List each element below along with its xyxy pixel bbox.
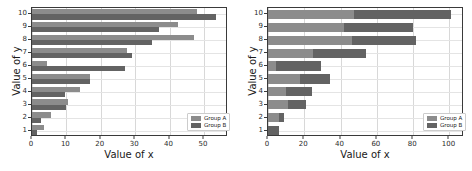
bar-segment (300, 74, 330, 83)
y-tick-label: 10 (249, 10, 263, 17)
bar-segment (268, 113, 279, 122)
x-tick-label: 0 (265, 141, 269, 148)
x-tick-label: 40 (335, 141, 344, 148)
x-tick-mark (412, 136, 413, 139)
legend-swatch-group-b-icon (191, 123, 201, 128)
x-tick-label: 100 (442, 141, 455, 148)
y-tick-mark (28, 39, 31, 40)
right-y-axis-label: Value of y (248, 26, 258, 116)
x-tick-label: 80 (408, 141, 417, 148)
x-tick-mark (202, 136, 203, 139)
left-legend: Group A Group B (187, 113, 230, 131)
y-tick-label: 1 (249, 126, 263, 133)
y-tick-mark (264, 130, 267, 131)
y-tick-mark (264, 65, 267, 66)
bar-segment (268, 49, 313, 58)
figure-two-bar-charts: 01020304050 12345678910 Value of x Value… (0, 0, 472, 171)
bar-segment (268, 126, 279, 135)
bar-segment (344, 23, 413, 32)
y-tick-mark (28, 52, 31, 53)
y-tick-mark (28, 117, 31, 118)
x-tick-mark (267, 136, 268, 139)
right-legend: Group A Group B (423, 113, 466, 131)
bar-segment (32, 92, 65, 97)
bar-segment (354, 10, 451, 19)
y-tick-mark (264, 52, 267, 53)
bar-segment (32, 40, 152, 45)
x-tick-mark (168, 136, 169, 139)
x-tick-mark (339, 136, 340, 139)
x-tick-label: 20 (95, 141, 104, 148)
legend-item-group-a: Group A (427, 116, 462, 122)
left-x-axis-label: Value of x (31, 150, 227, 160)
y-tick-mark (264, 117, 267, 118)
x-tick-mark (99, 136, 100, 139)
bar-segment (288, 100, 306, 109)
bar-segment (32, 130, 37, 135)
y-tick-mark (264, 26, 267, 27)
right-panel: 020406080100 12345678910 Value of x Valu… (236, 0, 472, 171)
left-y-axis-label: Value of y (12, 26, 22, 116)
x-tick-label: 40 (164, 141, 173, 148)
legend-item-group-a: Group A (191, 116, 226, 122)
y-tick-mark (28, 13, 31, 14)
y-tick-mark (28, 26, 31, 27)
bar-segment (268, 10, 354, 19)
bar-segment (32, 105, 66, 110)
bar-segment (268, 36, 352, 45)
y-tick-mark (264, 104, 267, 105)
y-tick-mark (28, 78, 31, 79)
bar-segment (32, 53, 132, 58)
y-tick-mark (28, 104, 31, 105)
x-tick-label: 0 (29, 141, 33, 148)
legend-swatch-group-a-icon (191, 116, 201, 121)
bar-segment (313, 49, 366, 58)
x-tick-mark (303, 136, 304, 139)
x-tick-mark (375, 136, 376, 139)
x-tick-label: 60 (371, 141, 380, 148)
x-tick-mark (31, 136, 32, 139)
bar-segment (286, 87, 311, 96)
legend-item-group-b: Group B (191, 123, 226, 129)
y-tick-mark (264, 13, 267, 14)
y-tick-label: 1 (13, 126, 27, 133)
bar-segment (32, 118, 41, 123)
legend-label-group-a: Group A (440, 116, 462, 122)
x-tick-mark (448, 136, 449, 139)
y-tick-mark (264, 91, 267, 92)
bar-segment (268, 100, 288, 109)
x-tick-label: 20 (299, 141, 308, 148)
x-tick-label: 30 (130, 141, 139, 148)
bar-segment (268, 74, 300, 83)
bar-segment (32, 14, 216, 19)
legend-swatch-group-a-icon (427, 116, 437, 121)
legend-swatch-group-b-icon (427, 123, 437, 128)
bar-segment (352, 36, 416, 45)
legend-label-group-a: Group A (204, 116, 226, 122)
x-tick-label: 10 (61, 141, 70, 148)
y-tick-mark (28, 91, 31, 92)
left-panel: 01020304050 12345678910 Value of x Value… (0, 0, 236, 171)
y-tick-mark (28, 65, 31, 66)
y-tick-mark (28, 130, 31, 131)
bar-segment (32, 79, 90, 84)
legend-label-group-b: Group B (440, 123, 462, 129)
bar-segment (276, 61, 320, 70)
legend-item-group-b: Group B (427, 123, 462, 129)
right-x-axis-label: Value of x (267, 150, 463, 160)
bar-segment (268, 23, 344, 32)
bar-segment (32, 66, 125, 71)
x-tick-label: 50 (198, 141, 207, 148)
bar-segment (32, 27, 159, 32)
bar-segment (268, 61, 276, 70)
bar-segment (268, 87, 286, 96)
x-tick-mark (65, 136, 66, 139)
x-tick-mark (134, 136, 135, 139)
bar-segment (279, 113, 284, 122)
y-tick-mark (264, 78, 267, 79)
legend-label-group-b: Group B (204, 123, 226, 129)
y-tick-label: 10 (13, 10, 27, 17)
y-tick-mark (264, 39, 267, 40)
